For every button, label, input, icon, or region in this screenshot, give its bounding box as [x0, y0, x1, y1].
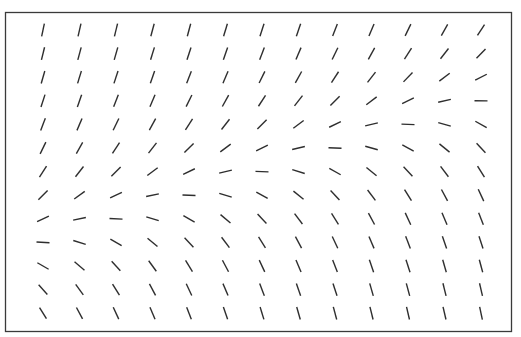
slope-field-canvas [0, 0, 521, 337]
slope-segment [110, 218, 123, 219]
slope-field-diagram [0, 0, 521, 337]
slope-segment [37, 242, 50, 243]
